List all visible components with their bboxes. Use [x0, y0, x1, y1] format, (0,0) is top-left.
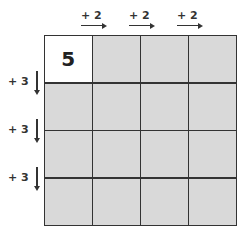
grid-cell: [93, 36, 140, 82]
right-arrow-icon: [177, 22, 203, 30]
grid-cell: [141, 84, 188, 130]
column-increment-text: + 2: [81, 9, 102, 22]
right-arrow-icon: [81, 22, 107, 30]
right-arrow-icon: [129, 22, 155, 30]
grid-cell: [93, 131, 140, 177]
down-arrow-icon: [34, 167, 40, 191]
grid-cell: [93, 179, 140, 225]
number-grid: 5: [44, 35, 237, 226]
grid-cell: [45, 179, 92, 225]
column-label-1: + 2: [81, 9, 121, 30]
grid-cell: [141, 179, 188, 225]
grid-cell: [189, 131, 236, 177]
grid-cell: [189, 84, 236, 130]
down-arrow-icon: [34, 119, 40, 143]
row-increment-text: + 3: [8, 123, 29, 136]
column-label-2: + 2: [129, 9, 169, 30]
grid-cell: [45, 84, 92, 130]
grid-cell: [45, 131, 92, 177]
grid-cell: [189, 179, 236, 225]
column-increment-text: + 2: [177, 9, 198, 22]
grid-cell: 5: [45, 36, 92, 82]
row-increment-text: + 3: [8, 171, 29, 184]
grid-cell: [93, 84, 140, 130]
column-label-3: + 2: [177, 9, 217, 30]
grid-cell: [141, 131, 188, 177]
row-increment-text: + 3: [8, 75, 29, 88]
down-arrow-icon: [34, 71, 40, 95]
grid-cell: [189, 36, 236, 82]
grid-cell: [141, 36, 188, 82]
column-increment-text: + 2: [129, 9, 150, 22]
